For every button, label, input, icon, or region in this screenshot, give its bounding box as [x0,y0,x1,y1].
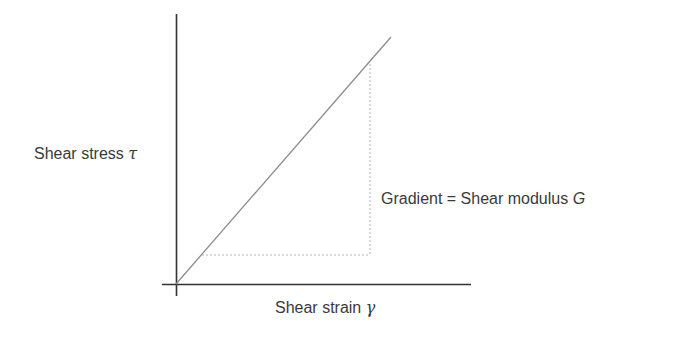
diagram-canvas [0,0,673,341]
tau-symbol: τ [128,144,137,163]
x-axis-label-text: Shear strain [275,299,361,316]
gradient-annotation: Gradient = Shear modulus G [381,190,585,208]
x-axis-label: Shear strain γ [275,298,375,317]
gradient-annotation-text: Gradient = Shear modulus [381,190,568,207]
g-symbol: G [573,190,585,207]
y-axis-label: Shear stress τ [34,144,137,163]
gamma-symbol: γ [366,298,376,317]
stress-strain-line [176,37,391,284]
y-axis-label-text: Shear stress [34,145,124,162]
